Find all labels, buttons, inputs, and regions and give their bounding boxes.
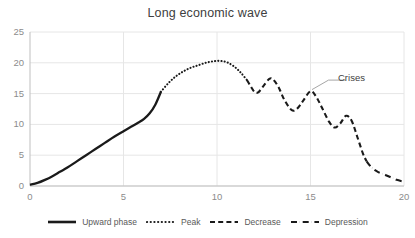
x-tick-5: 5 — [112, 191, 136, 202]
chart-legend: Upward phasePeakDecreaseDepression — [0, 212, 415, 232]
y-tick-15: 15 — [2, 88, 24, 99]
plot-area — [0, 0, 415, 238]
y-tick-25: 25 — [2, 26, 24, 37]
gridlines — [30, 32, 404, 186]
y-tick-10: 10 — [2, 118, 24, 129]
legend-item-upward-phase[interactable]: Upward phase — [47, 217, 137, 227]
x-tick-10: 10 — [205, 191, 229, 202]
x-tick-0: 0 — [18, 191, 42, 202]
legend-swatch-dashdot — [290, 218, 320, 226]
legend-swatch-solid — [47, 218, 77, 226]
annotation-crises-label: Crises — [338, 72, 365, 83]
series-line-depression — [367, 161, 404, 181]
y-tick-0: 0 — [2, 180, 24, 191]
legend-item-decrease[interactable]: Decrease — [209, 217, 280, 227]
legend-label: Upward phase — [82, 217, 137, 227]
y-tick-20: 20 — [2, 57, 24, 68]
legend-label: Peak — [181, 217, 200, 227]
series-line-upward-phase — [30, 92, 161, 185]
legend-swatch-dashed — [209, 218, 239, 226]
y-tick-5: 5 — [2, 149, 24, 160]
x-tick-20: 20 — [392, 191, 415, 202]
legend-label: Decrease — [244, 217, 280, 227]
chart-container: Long economic wave 0510152025 05101520 C… — [0, 0, 415, 238]
legend-swatch-dotted — [146, 218, 176, 226]
series-line-decrease — [247, 78, 367, 161]
legend-label: Depression — [325, 217, 368, 227]
legend-item-peak[interactable]: Peak — [146, 217, 200, 227]
series-line-peak — [161, 61, 247, 92]
legend-item-depression[interactable]: Depression — [290, 217, 368, 227]
x-tick-15: 15 — [299, 191, 323, 202]
